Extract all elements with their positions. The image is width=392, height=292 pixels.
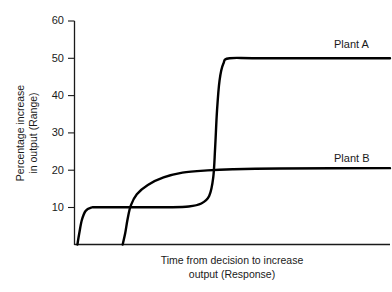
y-tick-label-10: 10 xyxy=(52,201,64,213)
y-tick-label-50: 50 xyxy=(52,52,64,64)
chart-svg: 60 50 40 30 20 10 Percentage increase in… xyxy=(0,0,392,292)
chart-figure: 60 50 40 30 20 10 Percentage increase in… xyxy=(0,0,392,292)
y-tick-label-60: 60 xyxy=(52,14,64,26)
y-tick-label-40: 40 xyxy=(52,89,64,101)
y-tick-label-30: 30 xyxy=(52,126,64,138)
x-axis-title-line1: Time from decision to increase xyxy=(161,254,304,266)
y-axis-title-line2: in output (Range) xyxy=(27,92,39,173)
y-axis-title: Percentage increase in output (Range) xyxy=(14,85,39,181)
series-label-plant-b: Plant B xyxy=(334,152,369,164)
series-label-plant-a: Plant A xyxy=(334,38,370,50)
y-axis-title-line1: Percentage increase xyxy=(14,85,26,181)
y-tick-label-20: 20 xyxy=(52,164,64,176)
x-axis-title-line2: output (Response) xyxy=(189,268,275,280)
